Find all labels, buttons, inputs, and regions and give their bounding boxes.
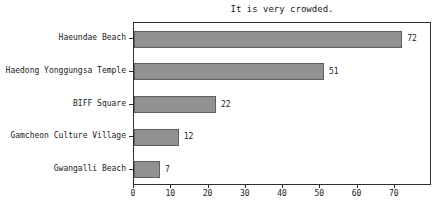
xtick-label-1: 10 <box>165 190 175 198</box>
xtick-mark-4 <box>282 185 283 188</box>
value-label-2: 22 <box>221 101 231 109</box>
category-label-3: Gamcheon Culture Village <box>0 132 126 140</box>
ytick-mark-0 <box>129 38 133 39</box>
bar-3 <box>134 129 179 146</box>
ytick-mark-4 <box>129 169 133 170</box>
bar-1 <box>134 63 324 80</box>
xtick-mark-0 <box>133 185 134 188</box>
category-label-4: Gwangalli Beach <box>0 165 126 173</box>
xtick-label-5: 50 <box>314 190 324 198</box>
value-label-0: 72 <box>407 35 417 43</box>
xtick-mark-3 <box>245 185 246 188</box>
xtick-label-3: 30 <box>240 190 250 198</box>
bar-4 <box>134 161 160 178</box>
xtick-mark-7 <box>394 185 395 188</box>
plot-area: 725122127 <box>133 22 431 185</box>
ytick-mark-2 <box>129 104 133 105</box>
xtick-label-2: 20 <box>203 190 213 198</box>
xtick-label-0: 0 <box>131 190 136 198</box>
value-label-3: 12 <box>184 133 194 141</box>
xtick-label-6: 60 <box>352 190 362 198</box>
category-label-0: Haeundae Beach <box>0 34 126 42</box>
chart-title: It is very crowded. <box>133 3 431 15</box>
bar-0 <box>134 31 402 48</box>
ytick-mark-3 <box>129 136 133 137</box>
ytick-mark-1 <box>129 71 133 72</box>
xtick-mark-6 <box>357 185 358 188</box>
xtick-label-7: 70 <box>389 190 399 198</box>
bar-chart-figure: It is very crowded. 725122127 Haeundae B… <box>0 0 444 219</box>
value-label-4: 7 <box>165 166 170 174</box>
xtick-mark-1 <box>170 185 171 188</box>
category-label-1: Haedong Yonggungsa Temple <box>0 67 126 75</box>
value-label-1: 51 <box>329 68 339 76</box>
bar-2 <box>134 96 216 113</box>
category-label-2: BIFF Square <box>0 100 126 108</box>
xtick-mark-5 <box>319 185 320 188</box>
xtick-mark-2 <box>208 185 209 188</box>
xtick-label-4: 40 <box>277 190 287 198</box>
